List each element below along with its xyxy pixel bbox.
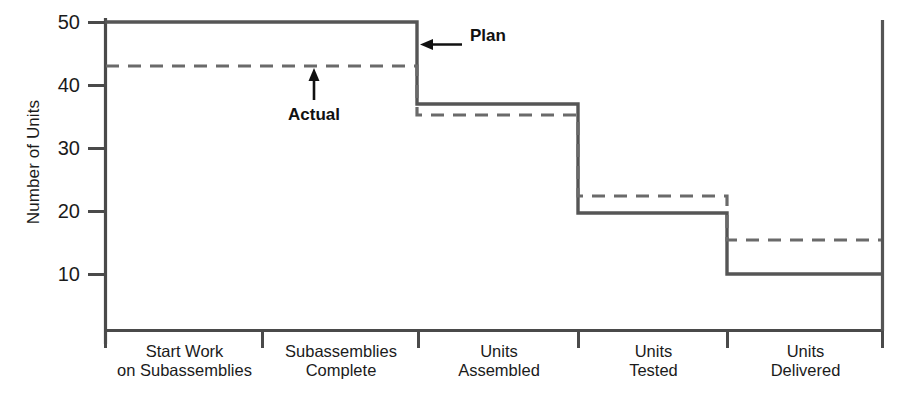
x-category-line2: Assembled: [419, 361, 579, 380]
x-category-line1: Subassemblies: [263, 342, 419, 361]
actual-annotation-arrow: [309, 68, 320, 100]
x-category-line1: Start Work: [106, 342, 263, 361]
plan-series-label: Plan: [470, 26, 506, 46]
x-category-subassemblies-complete: Subassemblies Complete: [263, 342, 419, 381]
x-category-line1: Units: [728, 342, 883, 361]
x-category-start-work-on-subassemblies: Start Work on Subassemblies: [106, 342, 263, 381]
series-plan-line: [105, 22, 883, 274]
x-category-line1: Units: [419, 342, 579, 361]
x-category-units-tested: Units Tested: [579, 342, 728, 381]
x-category-line2: Complete: [263, 361, 419, 380]
y-tick-label-50: 50: [32, 12, 80, 32]
y-tick-label-20: 20: [32, 201, 80, 221]
x-category-line1: Units: [579, 342, 728, 361]
x-category-line2: Delivered: [728, 361, 883, 380]
x-category-line2: on Subassemblies: [106, 361, 263, 380]
y-tick-label-30: 30: [32, 138, 80, 158]
y-tick-label-40: 40: [32, 75, 80, 95]
series-actual-line: [106, 66, 881, 240]
x-category-units-delivered: Units Delivered: [728, 342, 883, 381]
plan-annotation-arrow: [420, 39, 462, 50]
step-chart: Number of Units 50 40 30 20 10 Start Wor…: [0, 0, 912, 405]
y-tick-label-10: 10: [32, 264, 80, 284]
actual-series-label: Actual: [288, 105, 340, 125]
x-category-units-assembled: Units Assembled: [419, 342, 579, 381]
y-axis-ticks: [88, 23, 105, 275]
x-category-line2: Tested: [579, 361, 728, 380]
